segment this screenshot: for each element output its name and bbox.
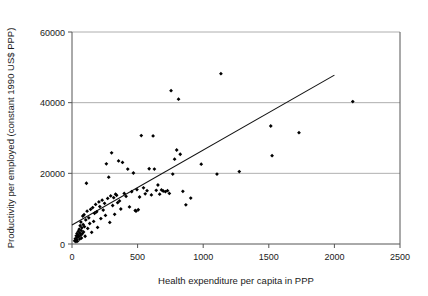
data-point xyxy=(90,230,94,234)
data-point xyxy=(85,181,89,185)
data-point xyxy=(139,134,143,138)
data-point xyxy=(104,162,108,166)
x-tick-marks-group xyxy=(72,244,400,248)
y-tick-label-60000: 60000 xyxy=(40,28,65,38)
data-point xyxy=(103,201,107,205)
data-point xyxy=(151,134,155,138)
data-point xyxy=(149,193,153,197)
data-point xyxy=(128,205,132,209)
x-tick-labels-group: 05001000150020002500 xyxy=(69,252,410,262)
data-point xyxy=(199,162,203,166)
data-point xyxy=(108,221,112,225)
data-point xyxy=(297,131,301,135)
data-point xyxy=(181,189,185,193)
y-tick-label-20000: 20000 xyxy=(40,169,65,179)
trend-line xyxy=(72,75,334,225)
data-point xyxy=(119,207,123,211)
data-point xyxy=(106,197,110,201)
y-tick-labels-group: 0200004000060000 xyxy=(40,28,65,250)
data-point xyxy=(113,212,117,216)
data-point xyxy=(215,172,219,176)
data-point xyxy=(112,196,116,200)
y-tick-label-0: 0 xyxy=(60,240,65,250)
data-point xyxy=(101,208,105,212)
x-axis-title: Health expenditure per capita in PPP xyxy=(158,275,314,286)
data-point xyxy=(99,217,103,221)
data-point xyxy=(169,89,173,93)
data-point xyxy=(96,225,100,229)
y-tick-label-40000: 40000 xyxy=(40,98,65,108)
plot-area-background xyxy=(72,32,400,244)
data-point xyxy=(86,227,90,231)
data-point xyxy=(110,151,114,155)
data-point xyxy=(171,172,175,176)
data-point xyxy=(156,183,160,187)
data-point xyxy=(107,175,111,179)
data-point xyxy=(147,167,151,171)
data-point xyxy=(177,97,181,101)
data-point xyxy=(126,167,130,171)
x-tick-label-1000: 1000 xyxy=(193,252,213,262)
data-point xyxy=(92,219,96,223)
data-point xyxy=(121,160,125,164)
data-point xyxy=(85,209,89,213)
x-tick-label-1500: 1500 xyxy=(259,252,279,262)
data-point xyxy=(167,192,171,196)
data-point xyxy=(142,186,146,190)
data-point xyxy=(154,188,158,192)
data-point xyxy=(152,167,156,171)
data-point xyxy=(184,203,188,207)
data-point xyxy=(84,218,88,222)
data-point xyxy=(109,194,113,198)
data-point xyxy=(178,152,182,156)
data-point xyxy=(138,195,142,199)
data-point xyxy=(189,196,193,200)
scatter-chart: 05001000150020002500 0200004000060000 He… xyxy=(0,0,428,296)
x-tick-label-0: 0 xyxy=(69,252,74,262)
data-point xyxy=(88,222,92,226)
data-point xyxy=(117,159,121,163)
data-point xyxy=(173,157,177,161)
data-point xyxy=(237,170,241,174)
y-axis-title: Productivity per employed (constant 1990… xyxy=(5,28,16,249)
data-point xyxy=(158,192,162,196)
data-point xyxy=(143,192,147,196)
data-point xyxy=(94,203,98,207)
data-points-group xyxy=(73,72,355,244)
data-point xyxy=(145,189,149,193)
data-point xyxy=(100,198,104,202)
data-point xyxy=(83,234,87,238)
x-tick-label-2000: 2000 xyxy=(324,252,344,262)
y-tick-marks-group xyxy=(68,32,72,244)
x-tick-label-500: 500 xyxy=(130,252,145,262)
data-point xyxy=(270,154,274,158)
data-point xyxy=(132,171,136,175)
data-point xyxy=(219,72,223,76)
data-point xyxy=(104,213,108,217)
data-point xyxy=(175,148,179,152)
gridlines-group xyxy=(72,32,400,173)
data-point xyxy=(97,200,101,204)
chart-figure: 05001000150020002500 0200004000060000 He… xyxy=(0,0,428,296)
data-point xyxy=(111,204,115,208)
x-tick-label-2500: 2500 xyxy=(390,252,410,262)
data-point xyxy=(269,124,273,128)
